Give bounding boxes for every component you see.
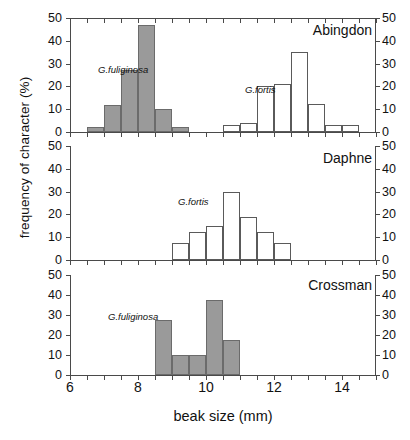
x-tick — [308, 260, 309, 265]
x-tick — [376, 132, 377, 137]
y-tick-label: 50 — [382, 13, 408, 23]
y-tick — [66, 86, 71, 87]
y-tick-label: 50 — [36, 141, 62, 151]
x-tick — [308, 375, 309, 380]
y-tick-label: 20 — [36, 209, 62, 219]
y-tick — [375, 109, 380, 110]
series-annotation: G.fortis — [178, 196, 209, 207]
axis-left-spine — [70, 146, 71, 260]
y-tick — [66, 169, 71, 170]
x-tick — [325, 260, 326, 265]
x-tick — [274, 132, 275, 137]
y-axis-title: frequency of character (%) — [17, 48, 32, 268]
histogram-bar — [138, 25, 155, 132]
series-annotation: G.fuliginosa — [108, 311, 158, 322]
x-tick — [87, 132, 88, 137]
histogram-bar — [274, 84, 291, 132]
x-tick — [104, 132, 105, 137]
y-tick-label: 30 — [36, 187, 62, 197]
y-tick — [375, 146, 380, 147]
plot-area: 0010102020303040405050G.fuliginosaG.fort… — [70, 18, 376, 132]
histogram-bar — [223, 340, 240, 375]
x-tick — [189, 132, 190, 137]
y-tick-label: 40 — [36, 164, 62, 174]
x-tick — [359, 132, 360, 137]
histogram-bar — [342, 125, 359, 132]
axis-top-spine — [70, 18, 376, 19]
x-tick — [359, 375, 360, 380]
y-tick-label: 20 — [382, 209, 408, 219]
y-tick-label: 0 — [382, 255, 408, 265]
histogram-bar — [240, 217, 257, 260]
y-tick — [375, 335, 380, 336]
y-tick-label: 0 — [36, 127, 62, 137]
y-tick-label: 0 — [36, 255, 62, 265]
y-tick — [375, 192, 380, 193]
x-tick — [325, 375, 326, 380]
y-tick — [375, 237, 380, 238]
y-tick-label: 10 — [382, 350, 408, 360]
histogram-bar — [240, 123, 257, 132]
y-tick-label: 50 — [36, 270, 62, 280]
y-tick — [66, 109, 71, 110]
y-tick-label: 20 — [382, 330, 408, 340]
y-tick — [66, 355, 71, 356]
x-tick — [206, 132, 207, 137]
histogram-bar — [257, 232, 274, 261]
x-axis-title: beak size (mm) — [70, 408, 376, 424]
y-tick-label: 20 — [382, 81, 408, 91]
histogram-bar — [121, 70, 138, 132]
y-tick-label: 30 — [382, 59, 408, 69]
y-tick — [66, 335, 71, 336]
x-tick — [155, 132, 156, 137]
y-tick-label: 10 — [36, 350, 62, 360]
axis-right-spine — [375, 18, 376, 132]
panel-title: Crossman — [308, 277, 372, 293]
histogram-bar — [172, 355, 189, 375]
histogram-bar — [291, 52, 308, 132]
x-tick — [70, 132, 71, 137]
x-tick — [70, 260, 71, 265]
y-tick-label: 0 — [36, 370, 62, 380]
x-tick — [138, 132, 139, 137]
y-tick — [66, 315, 71, 316]
y-tick — [375, 64, 380, 65]
series-annotation: G.fortis — [245, 84, 276, 95]
y-tick-label: 10 — [382, 104, 408, 114]
x-tick — [121, 132, 122, 137]
y-tick-label: 40 — [36, 36, 62, 46]
y-tick-label: 30 — [382, 187, 408, 197]
x-tick — [87, 375, 88, 380]
x-tick — [155, 375, 156, 380]
x-tick — [223, 132, 224, 137]
x-tick-top — [376, 18, 377, 23]
x-tick — [359, 260, 360, 265]
histogram-bar — [87, 127, 104, 132]
x-tick — [240, 260, 241, 265]
y-tick-label: 30 — [36, 310, 62, 320]
x-tick — [308, 132, 309, 137]
axis-right-spine — [375, 146, 376, 260]
y-tick — [375, 41, 380, 42]
y-tick-label: 40 — [382, 164, 408, 174]
y-tick-label: 0 — [382, 127, 408, 137]
x-tick — [325, 132, 326, 137]
x-tick-label: 8 — [123, 380, 153, 394]
histogram-bar — [189, 232, 206, 261]
x-tick — [376, 260, 377, 265]
y-tick-label: 30 — [36, 59, 62, 69]
y-tick — [375, 169, 380, 170]
y-tick — [375, 86, 380, 87]
x-tick — [189, 375, 190, 380]
x-tick — [257, 260, 258, 265]
x-tick — [274, 260, 275, 265]
y-tick — [66, 237, 71, 238]
y-tick-label: 10 — [382, 232, 408, 242]
axis-right-spine — [375, 275, 376, 375]
x-tick — [342, 132, 343, 137]
y-tick-label: 40 — [382, 290, 408, 300]
panel-title: Abingdon — [313, 22, 372, 38]
y-tick-label: 50 — [36, 13, 62, 23]
y-tick-label: 30 — [382, 310, 408, 320]
y-tick — [375, 275, 380, 276]
